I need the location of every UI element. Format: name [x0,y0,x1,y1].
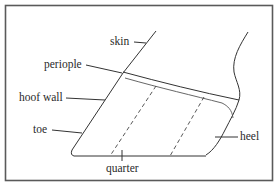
hoof-wall-front-outline [71,73,123,156]
label-hoof-wall: hoof wall [19,91,63,103]
label-skin: skin [110,35,129,47]
coronary-band-line [123,72,239,100]
label-toe: toe [33,123,47,135]
label-heel: heel [240,130,259,142]
quarter-boundary-front [110,86,156,156]
periople-lower-line [125,78,233,118]
label-quarter: quarter [106,162,139,175]
hoof-diagram: skin periople hoof wall toe quarter heel [0,0,277,186]
label-periople: periople [44,58,82,71]
quarter-boundary-back [170,97,204,156]
hoof-diagram-svg: skin periople hoof wall toe quarter heel [0,0,277,186]
skin-leader-line [134,42,146,43]
hoof-wall-leader-line [66,98,105,100]
toe-leader-line [52,130,82,133]
periople-leader-line [86,65,122,73]
